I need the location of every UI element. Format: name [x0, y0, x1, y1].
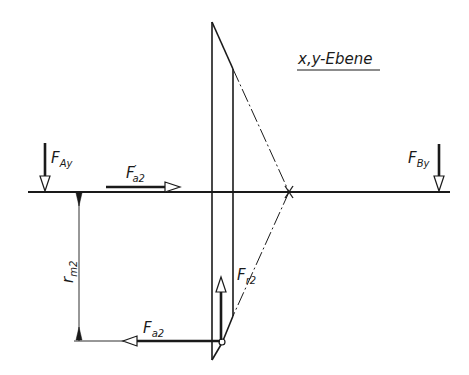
force-arrow-F-a2 — [123, 336, 220, 346]
label-F-By: FBy — [408, 149, 431, 169]
label-F-Ay: FAy — [51, 149, 73, 169]
label-F-a2: Fa2 — [143, 319, 164, 339]
plane-title: x,y-Ebene — [297, 50, 372, 68]
force-arrow-F-By — [434, 144, 444, 191]
label-r-m2: rm2 — [59, 261, 79, 283]
label-F-a2-prime: F′a2 — [126, 163, 145, 184]
force-arrow-F-Ay — [40, 143, 50, 191]
force-arrow-F-r2 — [216, 277, 226, 340]
bevel-gear-outline — [212, 22, 233, 360]
label-F-r2: Fr2 — [237, 266, 256, 286]
gear-force-diagram: FAy F′a2 FBy Fa2 Fr2 rm2 x,y-Ebene — [0, 0, 469, 375]
dimension-r-m2 — [74, 192, 124, 341]
